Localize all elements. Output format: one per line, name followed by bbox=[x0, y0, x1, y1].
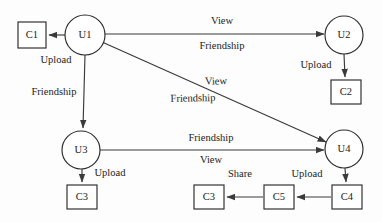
edge-u2-c2 bbox=[344, 54, 345, 77]
user-node-u2[interactable]: U2 bbox=[325, 16, 363, 54]
edge-label-u1-u4-view: View bbox=[205, 75, 228, 86]
content-node-c3-left-label: C3 bbox=[76, 191, 88, 202]
edge-label-u2-c2-upload: Upload bbox=[301, 59, 333, 70]
content-node-c1[interactable]: C1 bbox=[18, 22, 46, 48]
edge-label-u1-u3-friendship: Friendship bbox=[32, 86, 77, 97]
content-node-c3-left[interactable]: C3 bbox=[67, 185, 97, 209]
user-node-u4-label: U4 bbox=[338, 143, 352, 154]
diagram-canvas: C1 C2 C3 C3 C5 C4 U1 U2 bbox=[0, 0, 382, 222]
graph-svg: C1 C2 C3 C3 C5 C4 U1 U2 bbox=[0, 0, 382, 222]
user-node-u4[interactable]: U4 bbox=[325, 130, 363, 168]
content-node-c3-bottom[interactable]: C3 bbox=[194, 185, 224, 209]
user-node-u1-label: U1 bbox=[79, 29, 92, 40]
content-node-c4-label: C4 bbox=[341, 191, 354, 202]
edge-label-u1-u2-view: View bbox=[211, 15, 234, 26]
content-node-c3-bottom-label: C3 bbox=[203, 191, 215, 202]
edge-label-u4-c4-upload: Upload bbox=[292, 168, 324, 179]
content-node-c2[interactable]: C2 bbox=[331, 80, 361, 104]
edge-u4-c4 bbox=[345, 168, 346, 182]
edge-label-c5-c3-share: Share bbox=[228, 168, 252, 179]
edge-u1-u3 bbox=[83, 55, 85, 128]
edge-label-u3-c3-upload: Upload bbox=[95, 167, 127, 178]
edge-label-u1-c1-upload: Upload bbox=[41, 54, 73, 65]
user-node-u3-label: U3 bbox=[75, 144, 88, 155]
content-node-c1-label: C1 bbox=[26, 29, 38, 40]
edge-label-u3-u4-view: View bbox=[200, 154, 223, 165]
user-node-u1[interactable]: U1 bbox=[65, 15, 105, 55]
content-node-c4[interactable]: C4 bbox=[332, 185, 362, 209]
edge-label-u1-u2-friendship: Friendship bbox=[200, 40, 245, 51]
content-node-c5[interactable]: C5 bbox=[264, 185, 294, 209]
user-node-u2-label: U2 bbox=[338, 29, 351, 40]
user-node-u3[interactable]: U3 bbox=[62, 131, 100, 169]
content-node-c5-label: C5 bbox=[273, 191, 285, 202]
content-node-c2-label: C2 bbox=[340, 86, 352, 97]
edge-label-u1-u4-friendship: Friendship bbox=[170, 92, 215, 104]
edge-label-u3-u4-friendship: Friendship bbox=[189, 132, 234, 143]
